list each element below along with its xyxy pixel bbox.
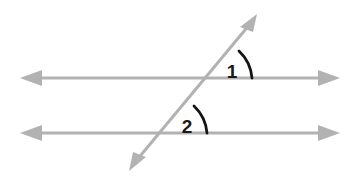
geometry-canvas: 1 2: [0, 0, 356, 180]
angle-1-label: 1: [227, 61, 238, 82]
angle-2-label: 2: [182, 116, 193, 137]
figure-background: [0, 0, 356, 180]
geometry-figure: 1 2: [0, 0, 356, 180]
